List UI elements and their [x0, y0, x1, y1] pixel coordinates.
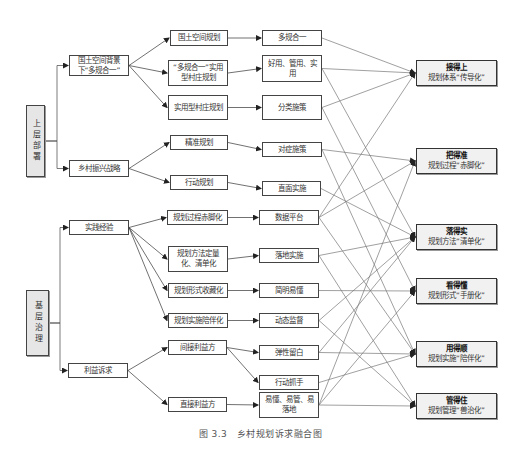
- outcome-title: 看得懂: [446, 281, 467, 291]
- outcome-manage: 管得住 规划管理“兽治化”: [416, 393, 497, 419]
- outcome-use: 用得顺 规划实施“陪伴化”: [416, 341, 497, 367]
- outcome-subtitle: 规划体系“传导化”: [428, 73, 485, 83]
- node-indirect-stakeholder: 间接利益方: [168, 340, 227, 355]
- outcome-understand: 看得懂 规划形式“手册化”: [416, 278, 497, 304]
- outcome-title: 管得住: [446, 396, 467, 406]
- outcome-subtitle: 规划管理“兽治化”: [428, 406, 485, 416]
- node-direct-stakeholder: 直接利益方: [168, 397, 227, 412]
- node-classified-policy: 分类施策: [262, 95, 322, 120]
- node-territorial-planning: 国土空间规划: [170, 30, 228, 46]
- node-easy-understand-manage-land: 易懂、易管、易落地: [259, 392, 319, 418]
- diagram-canvas: 上层部署 基层治理 国土空间背景下“多规合一” 乡村振兴战略 实践经验 利益诉求…: [0, 0, 521, 456]
- node-practical-village-planning: 实用型村庄规划: [168, 95, 228, 120]
- node-multi-plan-integration: 多规合一: [262, 30, 322, 46]
- outcome-title: 用得顺: [446, 344, 467, 354]
- node-practical-village-planning-multi: “多规合一”实用型村庄规划: [168, 60, 228, 86]
- outcome-subtitle: 规划形式“手册化”: [428, 291, 485, 301]
- outcome-title: 落得实: [446, 227, 467, 237]
- outcome-accurate: 把得准 规划过程“赤脚化”: [416, 148, 497, 174]
- outcome-subtitle: 规划实施“陪伴化”: [428, 354, 485, 364]
- node-action-planning: 行动规划: [170, 175, 228, 190]
- outcome-subtitle: 规划方法“清单化”: [428, 237, 485, 247]
- node-action-handle: 行动抓手: [259, 375, 319, 390]
- outcome-subtitle: 规划过程“赤脚化”: [428, 161, 485, 171]
- outcome-connect: 接得上 规划体系“传导化”: [416, 60, 497, 86]
- node-interest-appeals: 利益诉求: [68, 363, 128, 378]
- outcome-implement: 落得实 规划方法“清单化”: [416, 224, 497, 250]
- node-targeted-policy: 对症施策: [262, 142, 322, 157]
- node-practice-experience: 实践经验: [69, 220, 129, 235]
- root-grassroots-governance: 基层治理: [26, 290, 49, 356]
- root-upper-deployment: 上层部署: [26, 105, 45, 177]
- outcome-title: 把得准: [446, 151, 467, 161]
- node-barefoot-process: 规划过程赤脚化: [167, 210, 228, 225]
- node-collectible-form: 规划形式收藏化: [168, 283, 228, 298]
- figure-caption: 图 3.3 乡村规划诉求融合图: [0, 427, 521, 440]
- outcome-title: 接得上: [446, 63, 467, 73]
- node-precise-planning: 精准规划: [170, 135, 228, 150]
- node-concise-understandable: 简明易懂: [259, 283, 319, 298]
- node-data-platform: 数据平台: [259, 210, 319, 225]
- node-useful-manageable-practical: 好用、管用、实用: [262, 55, 322, 82]
- node-territorial-multi-plan: 国土空间背景下“多规合一”: [69, 55, 129, 76]
- node-accompanied-implementation: 规划实施陪伴化: [168, 313, 228, 328]
- node-quantified-method: 规划方法定量化、清单化: [168, 246, 228, 272]
- node-face-implementation: 直面实施: [262, 181, 321, 196]
- node-flexible-reserve: 弹性留白: [259, 345, 319, 360]
- node-dynamic-supervision: 动态监督: [259, 313, 319, 328]
- node-ground-implementation: 落地实施: [259, 248, 319, 263]
- node-rural-revitalization: 乡村振兴战略: [69, 160, 129, 177]
